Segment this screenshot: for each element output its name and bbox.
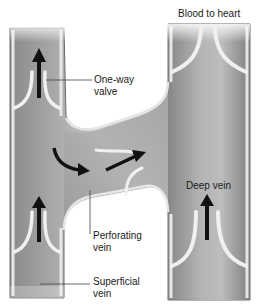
label-text: vein (93, 242, 142, 254)
label-one-way-valve: One-way valve (94, 74, 134, 98)
label-blood-to-heart: Blood to heart (178, 8, 240, 20)
label-text: vein (93, 288, 140, 300)
label-perforating-vein: Perforating vein (93, 230, 142, 254)
label-text: Superficial (93, 276, 140, 288)
label-deep-vein: Deep vein (186, 180, 231, 192)
label-superficial-vein: Superficial vein (93, 276, 140, 300)
label-text: Deep vein (186, 180, 231, 192)
label-text: Perforating (93, 230, 142, 242)
vein-body (10, 24, 250, 300)
label-text: One-way (94, 74, 134, 86)
label-text: Blood to heart (178, 8, 240, 20)
vein-illustration (0, 0, 263, 306)
label-text: valve (94, 86, 134, 98)
venous-diagram: Blood to heart One-way valve Deep vein P… (0, 0, 263, 306)
